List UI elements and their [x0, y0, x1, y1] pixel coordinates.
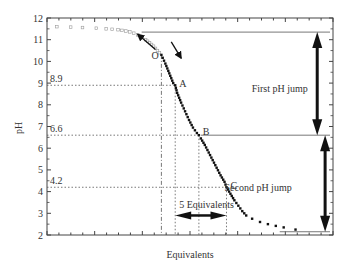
data-point	[179, 99, 181, 101]
data-point	[117, 28, 120, 31]
x-axis-title: Equivalents	[166, 249, 213, 260]
data-point	[56, 25, 59, 28]
data-point	[200, 137, 202, 139]
reverse-direction-arrow	[138, 34, 156, 49]
data-point	[235, 202, 237, 204]
data-point	[245, 214, 247, 216]
data-point	[294, 228, 296, 230]
data-point	[282, 226, 284, 228]
label-first-ph-jump: First pH jump	[252, 83, 308, 94]
data-point	[105, 28, 108, 31]
data-point	[192, 126, 194, 128]
data-point	[177, 94, 179, 96]
arrow-head-up	[312, 32, 322, 48]
arrow-head-down	[312, 119, 322, 135]
titration-chart: 23456789101112 8.96.64.2 OABCFirst pH ju…	[0, 0, 351, 267]
data-point	[188, 119, 190, 121]
data-point	[221, 176, 223, 178]
data-point	[167, 70, 169, 72]
data-point	[215, 167, 217, 169]
h-ref-label-8.9: 8.9	[50, 73, 63, 84]
data-point	[219, 174, 221, 176]
y-tick-label: 9	[38, 78, 43, 89]
label-a: A	[179, 78, 187, 89]
h-ref-label-6.6: 6.6	[50, 123, 63, 134]
data-point	[259, 221, 261, 223]
y-tick-label: 4	[38, 186, 43, 197]
y-tick-label: 5	[38, 164, 43, 175]
arrow-head-up	[320, 135, 330, 151]
data-point	[111, 28, 114, 31]
data-point	[196, 132, 198, 134]
data-point	[162, 57, 164, 59]
data-point	[185, 113, 187, 115]
label-o: O	[152, 50, 159, 61]
y-tick-label: 2	[38, 230, 43, 241]
data-point	[81, 26, 84, 29]
data-point	[229, 193, 231, 195]
data-point	[251, 218, 253, 220]
data-point	[243, 212, 245, 214]
y-tick-label: 11	[33, 34, 43, 45]
data-point	[171, 79, 173, 81]
y-tick-label: 8	[38, 99, 43, 110]
forward-direction-arrow	[171, 42, 181, 58]
data-point	[209, 154, 211, 156]
data-point	[204, 144, 206, 146]
y-tick-label: 10	[33, 56, 43, 67]
data-point	[189, 121, 191, 123]
annotation-labels: OABCFirst pH jumpSecond pH jump5 Equival…	[152, 50, 308, 210]
data-point	[168, 72, 170, 74]
annotation-arrows	[138, 32, 330, 232]
h-ref-label-4.2: 4.2	[50, 175, 63, 186]
data-point	[178, 97, 180, 99]
data-point	[210, 156, 212, 158]
data-point	[160, 54, 162, 56]
data-point	[166, 67, 168, 69]
label-second-ph-jump: Second pH jump	[224, 182, 291, 193]
data-point	[186, 116, 188, 118]
data-point	[201, 139, 203, 141]
data-point	[241, 210, 243, 212]
data-point	[231, 195, 233, 197]
data-point	[121, 29, 124, 32]
data-point	[174, 84, 176, 86]
second-ph-jump-arrow	[320, 135, 330, 232]
data-point	[218, 172, 220, 174]
data-point	[211, 159, 213, 161]
data-point	[95, 27, 98, 30]
data-point	[222, 178, 224, 180]
data-point	[267, 223, 269, 225]
data-series	[56, 25, 297, 230]
data-point	[132, 32, 135, 35]
data-point	[198, 134, 200, 136]
y-tick-label: 3	[38, 208, 43, 219]
data-point	[190, 124, 192, 126]
data-point	[125, 30, 128, 33]
arrow-head-down	[320, 216, 330, 232]
data-point	[194, 129, 196, 131]
data-point	[205, 146, 207, 148]
arrow-head-left	[175, 211, 191, 219]
y-tick-label: 12	[33, 13, 43, 24]
data-point	[217, 169, 219, 171]
data-point	[180, 101, 182, 103]
data-point	[169, 75, 171, 77]
five-equivalents-arrow	[175, 211, 226, 219]
data-point	[214, 164, 216, 166]
data-point	[129, 31, 132, 34]
data-point	[176, 92, 178, 94]
data-point	[239, 207, 241, 209]
data-point	[184, 110, 186, 112]
data-point	[163, 59, 165, 61]
data-point	[237, 205, 239, 207]
y-axis-title: pH	[13, 122, 24, 134]
data-point	[175, 89, 177, 91]
y-tick-label: 6	[38, 143, 43, 154]
data-point	[206, 149, 208, 151]
data-point	[183, 107, 185, 109]
data-point	[170, 77, 172, 79]
data-point	[208, 151, 210, 153]
y-tick-label: 7	[38, 121, 43, 132]
label-5-equivalents: 5 Equivalents	[179, 199, 234, 210]
